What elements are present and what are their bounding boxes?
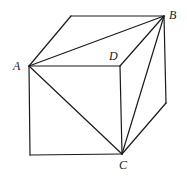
label-c: C	[119, 158, 128, 172]
cube-diagram: A B C D	[0, 0, 187, 177]
label-b: B	[169, 8, 177, 22]
diagonal-b-c	[122, 16, 164, 154]
diagonal-a-c	[29, 66, 122, 154]
edge-d-c	[120, 66, 122, 154]
label-d: D	[108, 49, 118, 63]
edge-right-bottom-c	[122, 103, 166, 154]
edge-a-front-bottom-left	[29, 66, 30, 155]
edge-front-bottom	[30, 154, 122, 155]
label-a: A	[12, 59, 21, 73]
diagonals	[29, 16, 164, 154]
edge-b-right-bottom	[164, 16, 166, 103]
edge-d-b	[120, 16, 164, 66]
